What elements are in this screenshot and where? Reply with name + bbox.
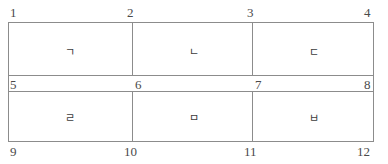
- node-label-8: 8: [364, 78, 371, 91]
- node-label-10: 10: [124, 145, 137, 158]
- node-label-12: 12: [357, 145, 370, 158]
- mesh-diagram: ㄱ ㄴ ㄷ ㄹ ㅁ ㅂ 1 2 3 4 5 6 7 8 9 10 11 12: [0, 0, 388, 164]
- grid-vline-left-upper: [132, 22, 133, 75]
- node-label-2: 2: [127, 6, 134, 19]
- node-label-7: 7: [255, 78, 262, 91]
- node-label-11: 11: [244, 145, 257, 158]
- node-label-1: 1: [10, 6, 17, 19]
- cell-label-r2c3: ㅂ: [254, 113, 374, 124]
- node-label-6: 6: [135, 78, 142, 91]
- node-label-3: 3: [247, 6, 254, 19]
- cell-label-r1c1: ㄱ: [10, 47, 130, 58]
- grid-hline-middle-upper: [8, 75, 374, 76]
- grid-vline-left-lower: [132, 91, 133, 142]
- node-label-4: 4: [364, 6, 371, 19]
- node-label-5: 5: [10, 78, 17, 91]
- cell-label-r2c2: ㅁ: [134, 113, 254, 124]
- cell-label-r1c3: ㄷ: [254, 47, 374, 58]
- grid-hline-middle-lower: [8, 91, 374, 92]
- cell-label-r2c1: ㄹ: [10, 113, 130, 124]
- cell-label-r1c2: ㄴ: [134, 47, 254, 58]
- node-label-9: 9: [10, 145, 17, 158]
